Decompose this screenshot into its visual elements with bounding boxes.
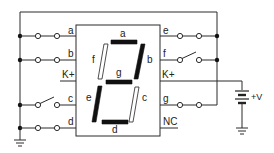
- ground-icon: [236, 128, 248, 134]
- supply-voltage-label: +V: [251, 92, 262, 102]
- switch-a-terminal: [35, 33, 40, 38]
- segment-label-b: b: [147, 54, 153, 65]
- left-pin-k-plus: K+: [60, 69, 76, 81]
- segment-label-e: e: [86, 92, 92, 103]
- pin-label-b: b: [68, 48, 74, 59]
- left-pin-a: a: [18, 25, 76, 39]
- segment-label-d: d: [112, 124, 118, 135]
- open-switch-lever-c: [40, 97, 54, 104]
- pin-label-g: g: [163, 93, 169, 104]
- left-pin-c: c: [18, 93, 76, 108]
- pin-label-e: e: [163, 25, 169, 36]
- segment-g: [106, 80, 132, 84]
- segment-a: [111, 40, 137, 44]
- ground-icon: [14, 140, 26, 146]
- right-pin-nc: NC: [160, 116, 178, 128]
- battery-icon: [235, 91, 249, 103]
- pin-label-a: a: [68, 25, 74, 36]
- right-pin-f: f: [160, 48, 219, 63]
- right-pin-k-plus: K+: [160, 69, 242, 81]
- left-pin-d: d: [18, 116, 76, 131]
- pin-label-nc: NC: [163, 116, 177, 127]
- right-pin-g: g: [160, 93, 217, 108]
- segment-label-c: c: [142, 92, 147, 103]
- pin-label-d: d: [68, 116, 74, 127]
- pin-label-c: c: [68, 93, 73, 104]
- left-pin-b: b: [18, 48, 76, 63]
- pin-label-f: f: [163, 48, 166, 59]
- pin-label-k-plus-left: K+: [62, 69, 75, 80]
- segment-label-a: a: [120, 28, 126, 39]
- open-switch-lever-f: [182, 52, 196, 59]
- seven-segment-switch-schematic: a b K+ c d: [0, 0, 274, 153]
- right-pin-e: e: [160, 25, 219, 39]
- segment-label-f: f: [92, 54, 95, 65]
- switch-a-terminal: [54, 33, 59, 38]
- segment-label-g: g: [116, 67, 122, 78]
- pin-label-k-plus-right: K+: [162, 69, 175, 80]
